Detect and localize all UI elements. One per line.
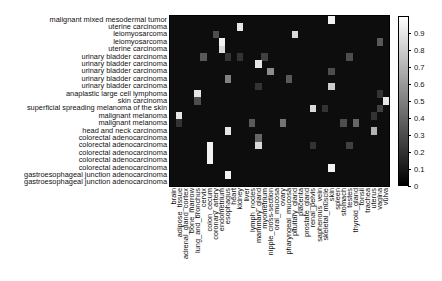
heatmap-cell (200, 53, 206, 61)
x-axis-labels: brainadipose_tissueadrenal_gland_cortexb… (170, 188, 389, 281)
heatmap-cell (383, 97, 389, 105)
heatmap-cell (225, 127, 231, 135)
colorbar-tick-label: 0.7 (414, 63, 425, 72)
heatmap-cell (371, 112, 377, 120)
colorbar-tick-label: 0.1 (414, 165, 425, 174)
colorbar-tick-label: 0.4 (414, 114, 425, 123)
heatmap-cell (255, 83, 261, 91)
heatmap-cell (328, 83, 334, 91)
heatmap-cell (207, 156, 213, 164)
heatmap-cell (340, 119, 346, 127)
colorbar-tick-mark (408, 33, 411, 34)
colorbar-tick-label: 0.3 (414, 131, 425, 140)
heatmap-cell (377, 38, 383, 46)
heatmap-cell (371, 127, 377, 135)
heatmap-cell (255, 142, 261, 150)
heatmap-cell (280, 119, 286, 127)
heatmap-cell (353, 119, 359, 127)
heatmap-cell (194, 97, 200, 105)
heatmap-cell (237, 23, 243, 31)
heatmap-cell (310, 105, 316, 113)
heatmap-cell (328, 164, 334, 172)
heatmap-cell (286, 75, 292, 83)
y-tick-label: gastroesophageal junction adenocarcinoma (24, 178, 167, 186)
colorbar-tick-mark (408, 50, 411, 51)
heatmap-cell (328, 68, 334, 76)
heatmap-cell (225, 75, 231, 83)
colorbar-tick-mark (408, 186, 411, 187)
heatmap-cell (249, 119, 255, 127)
colorbar-tick-label: 0.9 (414, 29, 425, 38)
colorbar-tick-mark (408, 118, 411, 119)
y-axis-labels: malignant mixed mesodermal tumoruterine … (0, 16, 167, 186)
heatmap-cell (225, 53, 231, 61)
heatmap-cell (346, 142, 352, 150)
heatmap-cell (237, 53, 243, 61)
colorbar-tick-label: 0.6 (414, 80, 425, 89)
heatmap-cell (176, 119, 182, 127)
colorbar-tick-label: 0 (414, 182, 418, 191)
heatmap-cell (267, 68, 273, 76)
colorbar-tick-mark (408, 135, 411, 136)
colorbar-tick-mark (408, 101, 411, 102)
heatmap-cell (261, 53, 267, 61)
heatmap-grid (170, 16, 389, 186)
heatmap-cell (292, 31, 298, 39)
colorbar-tick-mark (408, 152, 411, 153)
heatmap-cell (225, 171, 231, 179)
colorbar-tick-mark (408, 67, 411, 68)
colorbar-tick-label: 0.8 (414, 46, 425, 55)
colorbar-tick-label: 0.5 (414, 97, 425, 106)
colorbar-tick-mark (408, 84, 411, 85)
colorbar-tick-mark (408, 169, 411, 170)
colorbar-tick-label: 0.2 (414, 148, 425, 157)
colorbar-ticks: 00.10.20.30.40.50.60.70.80.9 (410, 16, 442, 186)
heatmap-cell (346, 53, 352, 61)
heatmap-cell (322, 105, 328, 113)
x-tick-label: vulva (382, 188, 389, 205)
heatmap-cell (310, 142, 316, 150)
heatmap-cell (328, 16, 334, 24)
heatmap-cell (255, 60, 261, 68)
heatmap-cell (377, 105, 383, 113)
